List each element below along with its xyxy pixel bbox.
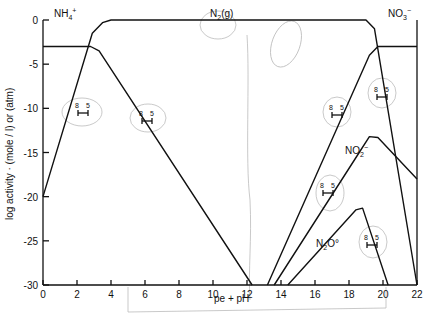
x-tick-label: 2: [74, 289, 80, 300]
x-axis-label: pe + pH: [214, 293, 249, 304]
svg-text:8: 8: [374, 86, 378, 93]
chart: 0-5-10-15-20-25-30 0246810121416182022 N…: [0, 0, 425, 318]
series-nh4-: [43, 47, 252, 286]
y-tick-label: -25: [24, 236, 39, 247]
svg-text:8: 8: [364, 234, 368, 241]
x-tick-label: 0: [40, 289, 46, 300]
svg-text:8: 8: [75, 102, 79, 109]
y-tick-label: -30: [24, 280, 39, 291]
y-axis-label: log activity · (mole / l) or (atm): [4, 88, 15, 220]
x-tick-label: 14: [275, 289, 287, 300]
svg-text:5: 5: [86, 102, 90, 109]
svg-text:8: 8: [329, 104, 333, 111]
svg-text:5: 5: [340, 104, 344, 111]
svg-text:5: 5: [375, 234, 379, 241]
svg-text:8: 8: [139, 110, 143, 117]
y-tick-label: 0: [32, 15, 38, 26]
y-tick-label: -15: [24, 148, 39, 159]
label-no2: NO2−: [345, 144, 368, 158]
x-tick-label: 22: [411, 289, 423, 300]
svg-text:8: 8: [320, 182, 324, 189]
svg-text:5: 5: [385, 86, 389, 93]
pencil-annotations: [62, 11, 396, 312]
x-tick-label: 4: [108, 289, 114, 300]
x-tick-label: 18: [343, 289, 355, 300]
y-tick-label: -20: [24, 192, 39, 203]
x-tick-label: 16: [309, 289, 321, 300]
x-tick-label: 6: [142, 289, 148, 300]
svg-text:5: 5: [331, 182, 335, 189]
y-tick-label: -10: [24, 103, 39, 114]
ph-markers: 858585858585: [75, 86, 389, 248]
y-tick-label: -5: [29, 59, 38, 70]
svg-text:5: 5: [150, 110, 154, 117]
label-nh4: NH4+: [54, 7, 76, 21]
series-no3-: [267, 47, 417, 286]
x-tick-label: 20: [377, 289, 389, 300]
label-n2: N2(g): [210, 8, 233, 21]
label-no3: NO3−: [388, 7, 411, 21]
x-tick-label: 8: [176, 289, 182, 300]
